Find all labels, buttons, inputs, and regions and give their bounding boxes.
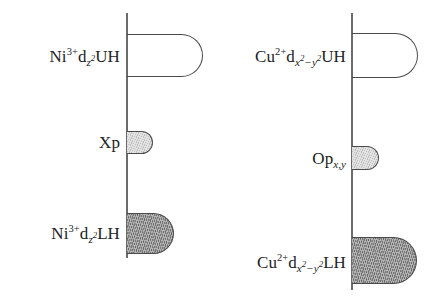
label-xp-text: Xp bbox=[99, 133, 120, 152]
label-ni-element: Ni bbox=[49, 47, 66, 66]
label-op-element: O bbox=[312, 149, 324, 168]
band-ni-upper-hubbard bbox=[127, 34, 203, 77]
band-x-p bbox=[127, 131, 153, 154]
label-op-sub: x,y bbox=[333, 158, 346, 170]
label-cu-band-suffix: UH bbox=[321, 47, 346, 66]
label-cu-element: Cu bbox=[255, 47, 275, 66]
label-cu-lh-orbital: d bbox=[288, 253, 297, 272]
label-cu-charge: 2+ bbox=[275, 46, 286, 57]
band-label-cu-upper-hubbard: Cu2+dx2−y2UH bbox=[206, 47, 346, 68]
label-ni-lh-band-suffix: LH bbox=[97, 224, 120, 243]
band-label-ni-upper-hubbard: Ni3+dz2UH bbox=[6, 47, 120, 68]
label-cu-lh-orbital-sub: x2−y2 bbox=[297, 262, 323, 274]
label-ni-lh-orbital-sub: z2 bbox=[88, 233, 97, 245]
label-ni-charge: 3+ bbox=[67, 46, 78, 57]
label-ni-band-suffix: UH bbox=[95, 47, 120, 66]
label-op-orbital: p bbox=[325, 149, 334, 168]
label-cu-lh-charge: 2+ bbox=[277, 252, 288, 263]
band-o-p bbox=[352, 146, 379, 170]
band-ni-lower-hubbard bbox=[127, 213, 174, 254]
band-cu-lower-hubbard bbox=[352, 237, 417, 284]
label-ni-lh-element: Ni bbox=[51, 224, 68, 243]
band-structure-figure: Ni3+dz2UH Xp Ni3+dz2LH Cu2+dx2−y2UH Opx,… bbox=[0, 0, 448, 306]
label-cu-lh-band-suffix: LH bbox=[323, 253, 346, 272]
band-label-x-p: Xp bbox=[6, 134, 120, 151]
band-label-o-p: Opx,y bbox=[206, 150, 346, 171]
label-cu-lh-element: Cu bbox=[257, 253, 277, 272]
band-label-ni-lower-hubbard: Ni3+dz2LH bbox=[6, 224, 120, 245]
band-cu-upper-hubbard bbox=[352, 33, 418, 78]
label-ni-orbital-sub: z2 bbox=[86, 56, 95, 68]
label-ni-lh-charge: 3+ bbox=[69, 223, 80, 234]
label-cu-orbital: d bbox=[286, 47, 295, 66]
label-cu-orbital-sub: x2−y2 bbox=[295, 56, 321, 68]
band-label-cu-lower-hubbard: Cu2+dx2−y2LH bbox=[206, 253, 346, 274]
